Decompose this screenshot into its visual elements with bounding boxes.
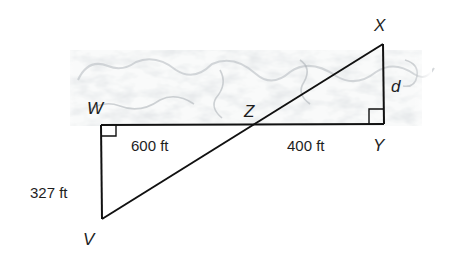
similar-triangles-diagram: W X Z Y V 600 ft 400 ft 327 ft d [0, 0, 461, 262]
segment-WY [101, 124, 384, 125]
segment-XY [383, 44, 384, 124]
vertex-label-V: V [83, 230, 96, 249]
vertex-label-W: W [87, 99, 105, 118]
vertex-label-X: X [373, 16, 386, 35]
measure-XY-d: d [391, 77, 401, 96]
measure-WV: 327 ft [30, 184, 68, 201]
vertex-label-Y: Y [373, 136, 386, 155]
measure-ZY: 400 ft [287, 137, 325, 154]
segment-WV [101, 125, 102, 219]
measure-WZ: 600 ft [131, 137, 169, 154]
vertex-label-Z: Z [243, 102, 255, 121]
